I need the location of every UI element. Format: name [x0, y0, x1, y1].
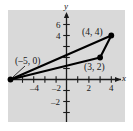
y-axis-arrow	[64, 12, 69, 18]
point-label-b: (4, 4)	[82, 28, 103, 38]
x-axis-name-label: x	[122, 74, 126, 83]
y-tick-label-4: 4	[56, 32, 61, 41]
graph-figure: y x y –4 –2 2 4 6 4 –2 (–5, 0) (4, 4) (3…	[0, 0, 133, 131]
y-axis-name-label: y	[64, 2, 68, 11]
point-marker-b[interactable]	[108, 33, 114, 39]
x-axis-arrow	[115, 77, 121, 82]
point-label-c: (3, 2)	[84, 63, 105, 73]
point-label-a: (–5, 0)	[15, 57, 40, 67]
point-marker-c[interactable]	[97, 55, 103, 61]
x-tick-label--2: –2	[52, 84, 61, 93]
y-tick-label--2: –2	[51, 98, 60, 107]
x-tick-label--4: –4	[30, 84, 39, 93]
point-marker-a[interactable]	[8, 77, 14, 83]
x-tick-label-4: 4	[109, 84, 114, 93]
y-tick-label-6: 6	[56, 21, 61, 30]
x-tick-label-2: 2	[87, 84, 92, 93]
